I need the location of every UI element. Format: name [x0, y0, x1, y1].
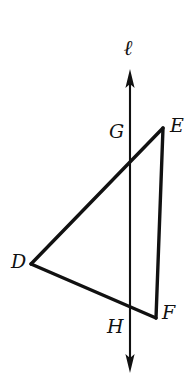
vertex-label-g: G [109, 122, 124, 141]
vertex-label-e: E [170, 116, 184, 135]
geometry-figure: D E F G H ℓ [0, 0, 193, 383]
segment-df [31, 264, 156, 318]
line-label-l: ℓ [124, 37, 133, 58]
vertex-label-d: D [11, 252, 26, 271]
segment-ef [156, 128, 163, 318]
figure-canvas [0, 0, 193, 383]
triangle-def [31, 128, 163, 318]
vertex-label-f: F [162, 303, 175, 322]
segment-de [31, 128, 163, 264]
transversal-line-l [125, 69, 134, 373]
vertex-label-h: H [107, 317, 124, 336]
